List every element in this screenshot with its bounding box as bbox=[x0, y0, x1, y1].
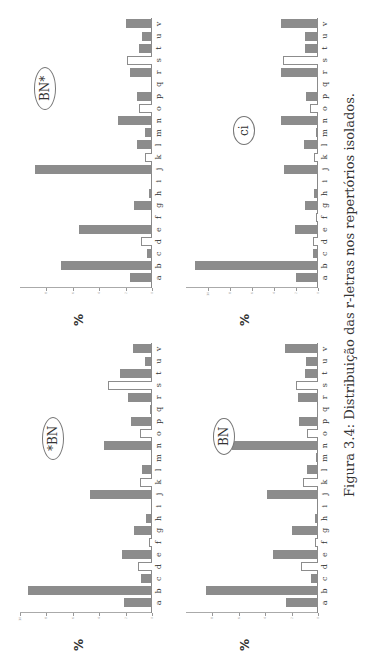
bar-o bbox=[139, 104, 152, 113]
bars bbox=[186, 343, 318, 609]
bar-r bbox=[128, 393, 152, 402]
category-label: q bbox=[154, 78, 166, 90]
bar-a bbox=[130, 273, 152, 282]
category-label: p bbox=[320, 416, 332, 428]
y-tick-label: 8 bbox=[44, 292, 48, 300]
bar-d bbox=[141, 237, 152, 246]
category-label: m bbox=[320, 452, 332, 464]
bar-l bbox=[137, 140, 152, 149]
bar-v bbox=[133, 344, 152, 353]
category-label: s bbox=[154, 379, 166, 391]
y-tick bbox=[208, 288, 209, 291]
bar-b bbox=[206, 586, 318, 595]
category-label: v bbox=[320, 18, 332, 30]
figure-caption: Figura 3.4: Distribuição das r-letras no… bbox=[342, 35, 357, 555]
bar-slot bbox=[186, 452, 318, 464]
bar-g bbox=[134, 526, 152, 535]
y-axis bbox=[20, 287, 152, 288]
category-label: l bbox=[320, 139, 332, 151]
category-label: p bbox=[320, 91, 332, 103]
bar-n bbox=[232, 441, 318, 450]
bar-slot bbox=[186, 549, 318, 561]
bar-j bbox=[284, 165, 318, 174]
category-label: k bbox=[154, 151, 166, 163]
bar-slot bbox=[186, 488, 318, 500]
category-label: f bbox=[320, 211, 332, 223]
bar-u bbox=[305, 32, 318, 41]
bar-f bbox=[151, 213, 152, 222]
bar-slot bbox=[20, 464, 152, 476]
bar-slot bbox=[186, 585, 318, 597]
category-label: k bbox=[154, 476, 166, 488]
bar-j bbox=[90, 490, 152, 499]
bar-slot bbox=[186, 78, 318, 90]
category-label: q bbox=[320, 78, 332, 90]
bar-t bbox=[305, 369, 318, 378]
bar-slot bbox=[20, 355, 152, 367]
category-label: d bbox=[154, 236, 166, 248]
bar-l bbox=[304, 140, 318, 149]
category-label: j bbox=[154, 163, 166, 175]
bar-slot bbox=[186, 224, 318, 236]
y-tick-label: 4 bbox=[97, 292, 101, 300]
category-label: b bbox=[154, 260, 166, 272]
category-label: o bbox=[154, 103, 166, 115]
bar-slot bbox=[20, 163, 152, 175]
category-label: f bbox=[154, 536, 166, 548]
bar-slot bbox=[20, 403, 152, 415]
bar-s bbox=[283, 56, 318, 65]
bar-v bbox=[126, 19, 152, 28]
bar-slot bbox=[20, 42, 152, 54]
bar-slot bbox=[186, 512, 318, 524]
bar-q bbox=[317, 80, 318, 89]
category-label: o bbox=[320, 103, 332, 115]
bar-s bbox=[127, 56, 152, 65]
bar-slot bbox=[186, 187, 318, 199]
category-label: b bbox=[154, 585, 166, 597]
bar-l bbox=[142, 465, 152, 474]
bar-slot bbox=[186, 355, 318, 367]
bar-a bbox=[296, 273, 318, 282]
bar-k bbox=[314, 153, 318, 162]
bar-t bbox=[139, 44, 152, 53]
y-tick bbox=[318, 288, 319, 291]
category-label: e bbox=[320, 549, 332, 561]
category-label: v bbox=[154, 18, 166, 30]
bar-slot bbox=[186, 536, 318, 548]
bar-p bbox=[299, 417, 318, 426]
y-tick-label: 6 bbox=[71, 617, 75, 625]
bar-slot bbox=[20, 561, 152, 573]
bar-r bbox=[281, 68, 318, 77]
bar-f bbox=[316, 213, 318, 222]
category-label: j bbox=[154, 488, 166, 500]
bar-d bbox=[313, 237, 319, 246]
y-tick-label: 2 bbox=[294, 292, 298, 300]
category-label: g bbox=[154, 524, 166, 536]
category-label: s bbox=[320, 54, 332, 66]
bar-h bbox=[315, 514, 318, 523]
bar-slot bbox=[20, 549, 152, 561]
y-tick bbox=[126, 288, 127, 291]
bar-slot bbox=[20, 18, 152, 30]
bar-slot bbox=[186, 272, 318, 284]
chart-bn-star: % 02468 abcdefghijklmnopqrstuv BN* bbox=[12, 10, 172, 310]
category-label: r bbox=[154, 66, 166, 78]
bar-slot bbox=[186, 248, 318, 260]
category-label: f bbox=[154, 211, 166, 223]
y-tick bbox=[46, 613, 47, 616]
y-tick bbox=[152, 613, 153, 616]
bar-v bbox=[285, 344, 318, 353]
category-labels: abcdefghijklmnopqrstuv bbox=[320, 18, 332, 284]
y-tick bbox=[239, 613, 240, 616]
bars bbox=[186, 18, 318, 284]
y-tick bbox=[99, 288, 100, 291]
bar-slot bbox=[20, 224, 152, 236]
category-label: t bbox=[154, 42, 166, 54]
bar-j bbox=[35, 165, 152, 174]
bar-slot bbox=[20, 536, 152, 548]
y-tick-label: 4 bbox=[97, 617, 101, 625]
category-labels: abcdefghijklmnopqrstuv bbox=[320, 343, 332, 609]
bar-slot bbox=[20, 452, 152, 464]
bar-slot bbox=[20, 248, 152, 260]
bar-e bbox=[273, 550, 318, 559]
